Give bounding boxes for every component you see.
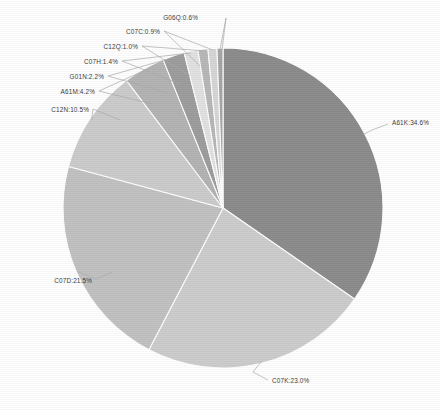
leader-connector-a61k (363, 130, 372, 135)
slice-label-c07d: C07D:21.5% (54, 277, 92, 284)
slice-label-c12q: C12Q:1.0% (104, 43, 139, 51)
slice-label-c12n: C12N:10.5% (51, 106, 89, 113)
slice-label-g01n: G01N:2.2% (70, 73, 105, 80)
slice-label-c07k: C07K:23.0% (272, 377, 310, 384)
pie-chart-svg: A61K:34.6%C07K:23.0%C07D:21.5%C12N:10.5%… (0, 0, 440, 410)
pie-chart-container: A61K:34.6%C07K:23.0%C07D:21.5%C12N:10.5%… (0, 0, 440, 410)
slice-label-a61m: A61M:4.2% (61, 88, 96, 95)
slice-label-g06q: G06Q:0.6% (163, 14, 198, 22)
slice-label-c07h: C07H:1.4% (84, 58, 118, 65)
leader-connector-c12q (142, 46, 203, 51)
leader-connector-c07c (164, 31, 213, 50)
leader-line-c07k (253, 372, 268, 380)
leader-line-a61k (372, 124, 388, 130)
slice-label-a61k: A61K:34.6% (392, 119, 429, 126)
slice-label-c07c: C07C:0.9% (126, 28, 160, 35)
pie-slices-group (63, 48, 383, 368)
leader-line-g06q (222, 18, 226, 50)
